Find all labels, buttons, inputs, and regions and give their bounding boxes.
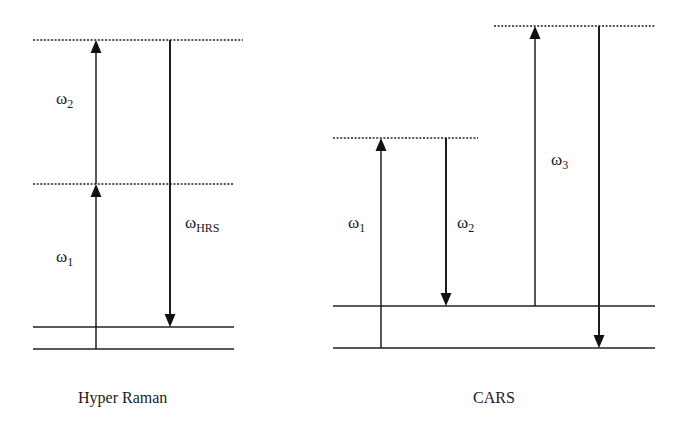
omega-1-label: ω1	[56, 248, 73, 268]
omega2-down-arrow	[441, 138, 452, 306]
omega-1-label: ω1	[348, 214, 365, 234]
omega-2-label: ω2	[56, 90, 73, 110]
caption-cars: CARS	[473, 390, 515, 406]
omega-2-label: ω2	[457, 214, 474, 234]
omega2-up-arrow	[91, 40, 102, 184]
omegaAS-down-arrow	[594, 26, 605, 348]
omega-3-label: ω3	[551, 151, 568, 171]
omega1-up-arrow	[91, 184, 102, 349]
omega3-up-arrow	[530, 26, 541, 306]
energy-level-diagram	[0, 0, 686, 425]
omega-hrs-label: ωHRS	[185, 214, 220, 234]
hyper-raman-diagram	[33, 40, 243, 349]
caption-hyper-raman: Hyper Raman	[78, 390, 167, 406]
cars-diagram	[333, 26, 655, 348]
omega1-up-arrow	[376, 138, 387, 348]
